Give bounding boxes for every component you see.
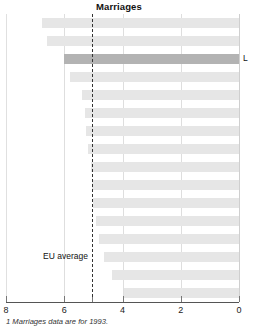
bar: [86, 126, 239, 137]
bar: [85, 108, 239, 119]
x-axis-line: [6, 302, 239, 303]
tick-mark: [6, 296, 7, 302]
tick-label: 0: [236, 305, 241, 315]
bar: [99, 234, 239, 245]
bar: [92, 180, 239, 191]
tick-mark: [181, 296, 182, 302]
tick-label: 2: [178, 305, 183, 315]
tick-mark: [123, 296, 124, 302]
reference-tick-mark: [92, 297, 93, 302]
tick-label: 6: [62, 305, 67, 315]
bar: [93, 198, 239, 209]
bar: [91, 162, 240, 173]
plot-left-border: [6, 14, 7, 302]
highlight-series-label: L: [243, 53, 248, 63]
bar: [47, 36, 239, 47]
bar: [70, 72, 239, 83]
chart-title: Marriages: [0, 1, 238, 12]
bar: [112, 270, 239, 281]
bar: [42, 18, 239, 29]
gridline: [239, 14, 240, 302]
tick-mark: [64, 296, 65, 302]
tick-mark: [239, 296, 240, 302]
bar: [96, 216, 239, 227]
bar: [64, 54, 239, 65]
eu-average-reference-line: [92, 14, 93, 302]
bar: [104, 252, 239, 263]
tick-label: 8: [3, 305, 8, 315]
bar: [82, 90, 239, 101]
chart-footnote: 1 Marriages data are for 1993.: [6, 317, 108, 326]
tick-label: 4: [120, 305, 125, 315]
bar-chart: Marriages 86420 EU average L 1 Marriages…: [0, 0, 258, 331]
eu-average-label: EU average: [20, 251, 88, 261]
bar: [88, 144, 239, 155]
